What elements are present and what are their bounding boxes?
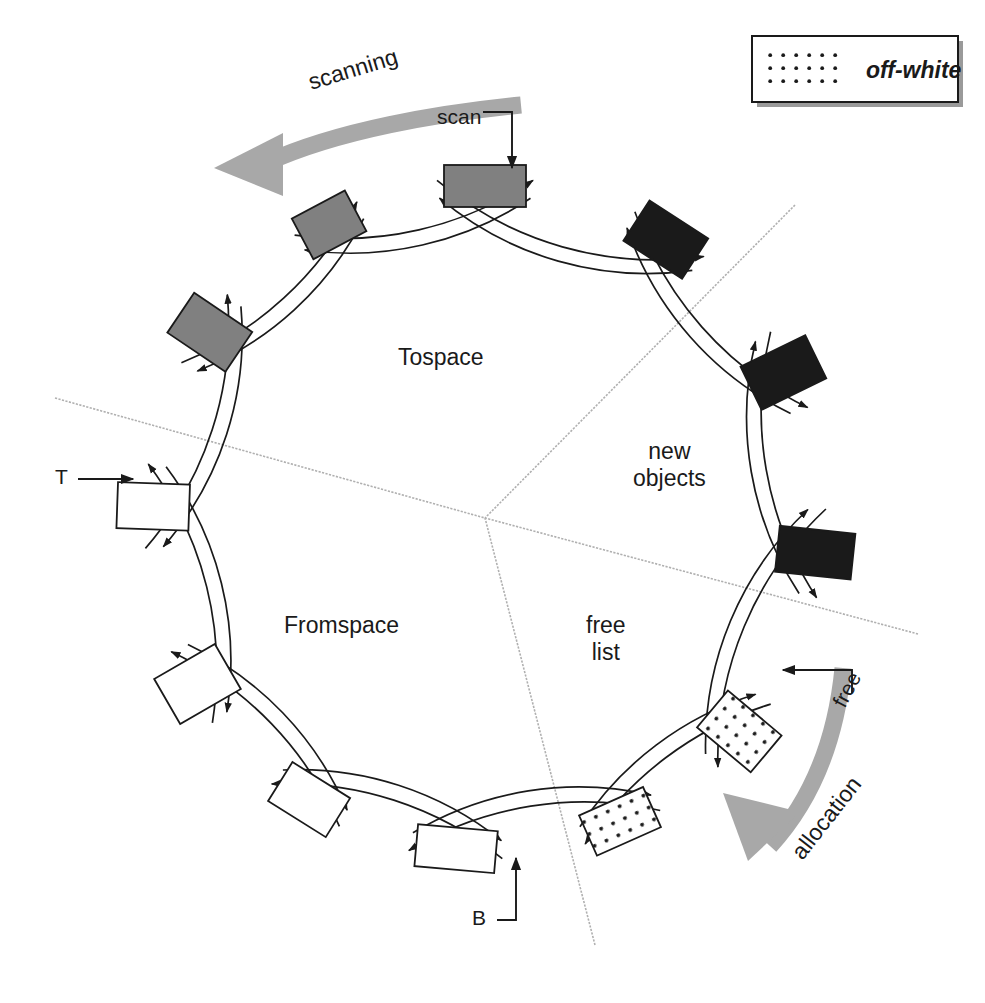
sector-label-new-line1: new: [648, 438, 690, 464]
legend-label-off-white: off-white: [866, 57, 961, 84]
cell-black-2: [741, 335, 827, 410]
cell-black-3: [775, 526, 855, 580]
sector-label-free-list: free list: [586, 612, 626, 666]
dotted-swatch-icon: [768, 52, 846, 88]
cell-gray-3: [167, 293, 252, 372]
ring-diagram-svg: [0, 0, 985, 1003]
sector-label-new-objects: new objects: [633, 438, 706, 492]
scan-pointer-line: [483, 112, 512, 168]
sector-label-free-line1: free: [586, 612, 626, 638]
diagram-canvas: Tospace Fromspace new objects free list …: [0, 0, 985, 1003]
cell-gray-2: [292, 191, 367, 260]
sector-label-tospace: Tospace: [398, 344, 484, 371]
cell-scan-target: [444, 165, 526, 207]
cell-b-target: [414, 824, 497, 873]
cell-black-1: [623, 200, 708, 278]
cell-white-3: [268, 762, 350, 837]
pointer-label-scan: scan: [437, 105, 481, 129]
cell-free-2: [579, 787, 661, 856]
b-pointer-line: [497, 858, 516, 920]
pointer-label-t: T: [55, 465, 68, 489]
div-fromspace-free: [485, 518, 595, 945]
sector-label-free-line2: list: [592, 639, 620, 665]
pointer-label-b: B: [472, 906, 486, 930]
cell-white-2: [154, 644, 241, 724]
sector-label-fromspace: Fromspace: [284, 612, 399, 639]
cell-t-target: [116, 482, 190, 530]
sector-label-new-line2: objects: [633, 465, 706, 491]
cell-free-1: [697, 691, 781, 773]
